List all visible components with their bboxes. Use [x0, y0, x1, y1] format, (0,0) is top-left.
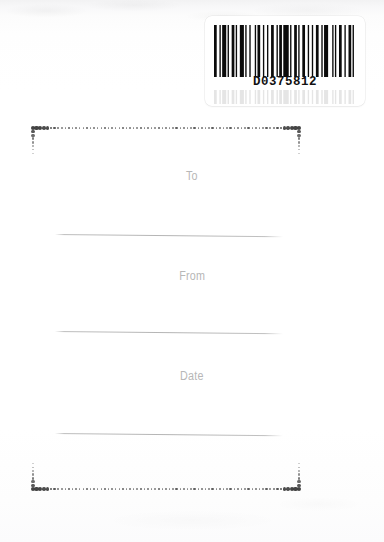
field-label-from: From [179, 269, 205, 283]
barcode-bar [267, 25, 268, 77]
barcode-bar [239, 25, 243, 77]
barcode-ghost-bar [290, 90, 291, 104]
barcode-ghost-bars [214, 90, 365, 104]
field-from: From [0, 266, 384, 284]
barcode-label: D0375812 [205, 16, 365, 106]
barcode-bar [232, 25, 234, 77]
barcode-bar [236, 25, 237, 77]
barcode-bar [308, 25, 309, 77]
barcode-ghost-bar [332, 90, 333, 104]
barcode-ghost-bar [246, 90, 247, 104]
barcode-ghost-bar [267, 90, 268, 104]
barcode-ghost-bar [277, 90, 278, 104]
barcode-ghost-bar [308, 90, 309, 104]
barcode-ghost-bar [249, 90, 251, 104]
barcode-bar [335, 25, 337, 77]
barcode-ghost-bar [324, 90, 328, 104]
barcode-bar [219, 25, 220, 77]
barcode-ghost-bar [353, 90, 354, 104]
barcode-ghost-bar [299, 90, 300, 104]
barcode-ghost-bar [321, 90, 322, 104]
barcode-number: D0375812 [211, 74, 358, 89]
scanned-card-page: D0375812 To From Date [0, 0, 384, 542]
barcode-bar [339, 25, 342, 77]
barcode-bar [302, 25, 305, 77]
barcode-ghost-bar [214, 90, 217, 104]
barcode-bar [284, 25, 288, 77]
barcode-bar [246, 25, 247, 77]
barcode-bar [254, 25, 255, 77]
barcode-ghost-bar [263, 90, 265, 104]
barcode-bar [249, 25, 251, 77]
barcode-bar [332, 25, 333, 77]
barcode-bar [295, 25, 297, 77]
barcode-ghost-bar [302, 90, 305, 104]
field-to: To [0, 166, 384, 184]
barcode-ghost-bar [339, 90, 342, 104]
barcode-ghost-bar [335, 90, 337, 104]
barcode-ghost-bar [280, 90, 282, 104]
barcode-ghost-bar [239, 90, 243, 104]
barcode-ghost-bar [316, 90, 319, 104]
barcode-ghost-bar [254, 90, 255, 104]
barcode-ghost-bar [295, 90, 297, 104]
barcode-ghost-bar [257, 90, 260, 104]
barcode-bar [222, 25, 225, 77]
field-date: Date [0, 366, 384, 384]
barcode-bar [321, 25, 322, 77]
field-label-date: Date [180, 369, 204, 383]
barcode-ghost-bar [222, 90, 225, 104]
barcode-bar [228, 25, 229, 77]
barcode-bar [324, 25, 328, 77]
barcode-ghost-bar [219, 90, 220, 104]
barcode-bar [349, 25, 351, 77]
barcode-bar [316, 25, 319, 77]
barcode-bar [214, 25, 217, 77]
barcode-ghost-bar [311, 90, 313, 104]
barcode-ghost-bar [228, 90, 229, 104]
barcode-ghost-bar [232, 90, 234, 104]
barcode-ghost-bar [344, 90, 345, 104]
barcode-ghost-bar [349, 90, 351, 104]
barcode-bar [290, 25, 291, 77]
barcode-ghost-bar [271, 90, 274, 104]
barcode-bar [353, 25, 354, 77]
barcode-ghost-bar [284, 90, 288, 104]
barcode-bar [257, 25, 260, 77]
barcode-bar [263, 25, 265, 77]
barcode-bar [280, 25, 282, 77]
barcode-bar [344, 25, 345, 77]
barcode-bar [299, 25, 300, 77]
barcode-bars [214, 25, 365, 77]
field-label-to: To [186, 169, 198, 183]
barcode-ghost-bar [236, 90, 237, 104]
barcode-bar [277, 25, 278, 77]
barcode-bar [311, 25, 313, 77]
barcode-bar [271, 25, 274, 77]
